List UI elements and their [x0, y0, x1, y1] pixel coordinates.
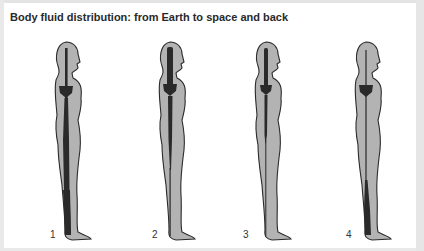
figure-label-3: 3	[243, 229, 249, 240]
figure-title: Body fluid distribution: from Earth to s…	[10, 11, 288, 23]
body-figure-1	[36, 40, 106, 245]
body-figure-2	[140, 40, 210, 245]
body-figure-3	[236, 40, 306, 245]
body-figure-4	[336, 40, 406, 245]
figure-label-4: 4	[346, 229, 352, 240]
figure-label-1: 1	[50, 229, 56, 240]
right-border	[416, 0, 424, 251]
figure-label-2: 2	[152, 229, 158, 240]
